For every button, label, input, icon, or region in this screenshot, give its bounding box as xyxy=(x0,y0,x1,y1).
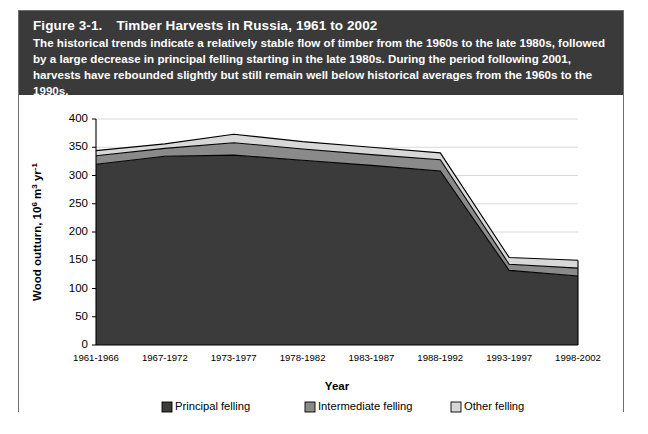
y-tick-label: 100 xyxy=(69,282,88,294)
chart-legend: Principal fellingIntermediate fellingOth… xyxy=(162,400,524,412)
x-tick-label: 1961-1966 xyxy=(73,352,119,363)
legend-label-intermediate-felling: Intermediate felling xyxy=(318,400,413,412)
x-tick-label: 1978-1982 xyxy=(280,352,326,363)
legend-swatch-other-felling xyxy=(451,402,461,412)
legend-label-other-felling: Other felling xyxy=(464,400,524,412)
figure-header: Figure 3-1.Timber Harvests in Russia, 19… xyxy=(19,11,623,95)
figure-title: Figure 3-1.Timber Harvests in Russia, 19… xyxy=(33,18,611,33)
x-axis-title: Year xyxy=(325,380,350,392)
y-tick-label: 300 xyxy=(69,169,88,181)
y-tick-label: 0 xyxy=(82,338,88,350)
legend-swatch-intermediate-felling xyxy=(305,402,315,412)
figure-title-text: Timber Harvests in Russia, 1961 to 2002 xyxy=(116,18,377,33)
x-tick-label: 1998-2002 xyxy=(555,352,601,363)
x-tick-label: 1973-1977 xyxy=(211,352,257,363)
y-tick-label: 150 xyxy=(69,253,88,265)
y-tick-label: 200 xyxy=(69,225,88,237)
x-tick-label: 1967-1972 xyxy=(142,352,188,363)
series-area-principal-felling xyxy=(96,155,578,345)
y-tick-label: 400 xyxy=(69,112,88,124)
y-tick-label: 50 xyxy=(75,310,88,322)
legend-swatch-principal-felling xyxy=(162,402,172,412)
x-tick-label: 1993-1997 xyxy=(486,352,532,363)
y-axis-ticks-group: 050100150200250300350400 xyxy=(69,112,96,350)
figure-container: Figure 3-1.Timber Harvests in Russia, 19… xyxy=(18,10,624,412)
x-tick-label: 1988-1992 xyxy=(417,352,463,363)
figure-number: Figure 3-1. xyxy=(33,18,102,33)
series-areas-group xyxy=(96,134,578,345)
x-tick-label: 1983-1987 xyxy=(348,352,394,363)
legend-label-principal-felling: Principal felling xyxy=(175,400,250,412)
y-axis-title-text: Wood outturn, 10 xyxy=(31,207,43,301)
stacked-area-chart: 050100150200250300350400 1961-19661967-1… xyxy=(19,95,623,413)
x-axis-ticks-group: 1961-19661967-19721973-19771978-19821983… xyxy=(73,352,601,363)
y-tick-label: 250 xyxy=(69,197,88,209)
y-axis-title: Wood outturn, 106 m3 yr-1 xyxy=(30,163,43,301)
figure-caption: The historical trends indicate a relativ… xyxy=(33,35,611,99)
y-tick-label: 350 xyxy=(69,140,88,152)
chart-area: 050100150200250300350400 1961-19661967-1… xyxy=(19,95,623,413)
